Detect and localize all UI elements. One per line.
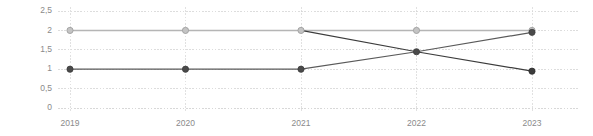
- data-point-marker[interactable]: [413, 49, 419, 55]
- line-chart-container: 2,521,510,50 20192020202120222023: [0, 0, 593, 136]
- data-point-marker[interactable]: [67, 66, 73, 72]
- x-axis-tick-label: 2022: [407, 118, 426, 128]
- data-point-marker[interactable]: [529, 29, 535, 35]
- data-point-marker[interactable]: [298, 66, 304, 72]
- line-chart-svg: 2,521,510,50 20192020202120222023: [0, 0, 593, 136]
- data-point-marker[interactable]: [413, 27, 419, 33]
- y-axis-tick-labels: 2,521,510,50: [40, 5, 52, 112]
- data-point-marker[interactable]: [529, 68, 535, 74]
- x-axis-tick-label: 2021: [292, 118, 311, 128]
- y-axis-tick-label: 2: [47, 25, 52, 35]
- data-point-marker[interactable]: [182, 27, 188, 33]
- y-axis-tick-label: 0: [47, 102, 52, 112]
- horizontal-gridlines: [58, 11, 580, 108]
- x-axis-tick-label: 2023: [523, 118, 542, 128]
- series-markers: [67, 27, 535, 74]
- y-axis-tick-label: 2,5: [40, 5, 52, 15]
- y-axis-tick-label: 0,5: [40, 83, 52, 93]
- x-axis-tick-label: 2020: [176, 118, 195, 128]
- x-axis-tick-label: 2019: [61, 118, 80, 128]
- series-line-series-rising: [70, 32, 532, 69]
- y-axis-tick-label: 1: [47, 63, 52, 73]
- data-point-marker[interactable]: [67, 27, 73, 33]
- data-point-marker[interactable]: [182, 66, 188, 72]
- data-point-marker[interactable]: [298, 27, 304, 33]
- x-axis-tick-labels: 20192020202120222023: [61, 118, 542, 128]
- y-axis-tick-label: 1,5: [40, 44, 52, 54]
